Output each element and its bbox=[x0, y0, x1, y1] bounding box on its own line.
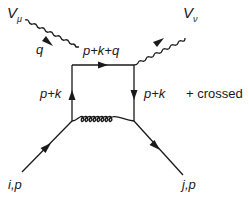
right-arrow-down-icon bbox=[131, 90, 138, 100]
v-mu-symbol: V bbox=[7, 4, 17, 21]
top-momentum-label: p+k+q bbox=[83, 44, 119, 57]
v-mu-label: Vμ bbox=[7, 5, 22, 20]
top-arrow-icon bbox=[98, 62, 108, 69]
v-nu-arrow-icon bbox=[153, 38, 164, 47]
gluon-line bbox=[72, 116, 134, 121]
right-momentum-label: p+k bbox=[144, 87, 165, 100]
outgoing-arrow-icon bbox=[150, 140, 161, 150]
crossed-annotation: + crossed bbox=[186, 87, 243, 100]
q-momentum-label: q bbox=[36, 43, 43, 56]
v-mu-boson-line bbox=[25, 20, 79, 47]
v-mu-subscript: μ bbox=[17, 14, 22, 24]
v-mu-arrow-icon bbox=[42, 36, 53, 46]
left-momentum-label: p+k bbox=[40, 87, 61, 100]
left-arrow-up-icon bbox=[69, 90, 76, 100]
outgoing-label: j,p bbox=[182, 178, 196, 191]
v-nu-symbol: V bbox=[183, 4, 193, 21]
incoming-label: i,p bbox=[8, 178, 22, 191]
v-nu-label: Vν bbox=[183, 5, 198, 20]
v-nu-subscript: ν bbox=[193, 14, 198, 24]
